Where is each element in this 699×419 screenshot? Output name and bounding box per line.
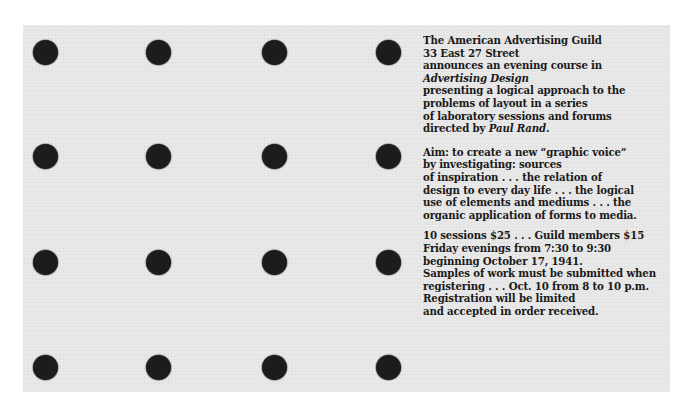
text-line: design to every day life . . . the logic… <box>423 184 663 197</box>
dot-icon <box>146 250 171 275</box>
intro-paragraph: The American Advertising Guild 33 East 2… <box>423 34 663 135</box>
dot-icon <box>33 355 58 380</box>
dot-icon <box>376 355 401 380</box>
dot-icon <box>33 144 58 169</box>
director-suffix: . <box>546 122 549 134</box>
dot-icon <box>262 40 287 65</box>
text-line: 10 sessions $25 . . . Guild members $15 <box>423 229 663 242</box>
dot-icon <box>33 40 58 65</box>
dot-icon <box>33 250 58 275</box>
dot-icon <box>376 40 401 65</box>
dot-icon <box>376 144 401 169</box>
course-title: Advertising Design <box>423 72 663 85</box>
text-line: announces an evening course in <box>423 59 663 72</box>
dot-icon <box>262 144 287 169</box>
announcement-text: The American Advertising Guild 33 East 2… <box>423 34 663 327</box>
text-line: organic application of forms to media. <box>423 209 663 222</box>
text-line: by investigating: sources <box>423 158 663 171</box>
details-paragraph: 10 sessions $25 . . . Guild members $15 … <box>423 229 663 317</box>
text-line: and accepted in order received. <box>423 305 663 318</box>
dot-icon <box>146 40 171 65</box>
text-line: of inspiration . . . the relation of <box>423 171 663 184</box>
director-name: Paul Rand <box>489 122 546 134</box>
dot-icon <box>146 144 171 169</box>
announcement-card: The American Advertising Guild 33 East 2… <box>23 25 670 392</box>
text-line: 33 East 27 Street <box>423 47 663 60</box>
director-prefix: directed by <box>423 122 489 134</box>
text-line: Friday evenings from 7:30 to 9:30 <box>423 242 663 255</box>
text-line: Samples of work must be submitted when <box>423 267 663 280</box>
text-line: The American Advertising Guild <box>423 34 663 47</box>
text-line: beginning October 17, 1941. <box>423 255 663 268</box>
dot-icon <box>262 355 287 380</box>
dot-icon <box>146 355 171 380</box>
text-line: use of elements and mediums . . . the <box>423 196 663 209</box>
aim-paragraph: Aim: to create a new “graphic voice” by … <box>423 146 663 222</box>
text-line: Aim: to create a new “graphic voice” <box>423 146 663 159</box>
text-line: directed by Paul Rand. <box>423 122 663 135</box>
text-line: presenting a logical approach to the <box>423 84 663 97</box>
text-line: Registration will be limited <box>423 292 663 305</box>
dot-icon <box>262 250 287 275</box>
text-line: problems of layout in a series <box>423 97 663 110</box>
dot-icon <box>376 250 401 275</box>
text-line: of laboratory sessions and forums <box>423 110 663 123</box>
text-line: registering . . . Oct. 10 from 8 to 10 p… <box>423 280 663 293</box>
